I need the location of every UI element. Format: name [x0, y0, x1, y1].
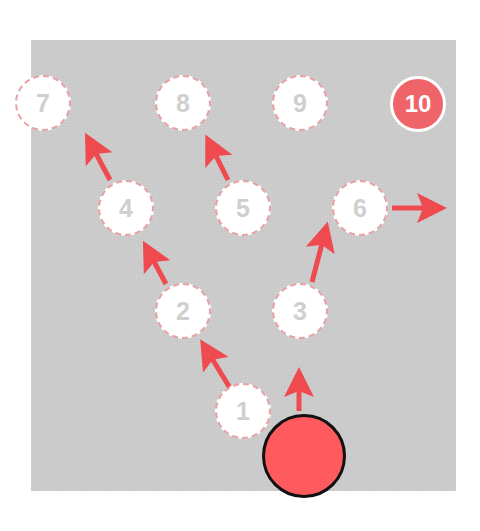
arrow-2-to-4: [150, 254, 166, 284]
node-7[interactable]: 7: [15, 75, 71, 131]
node-10-goal[interactable]: 10: [390, 76, 446, 132]
node-3[interactable]: 3: [272, 283, 328, 339]
arrow-3-to-6: [312, 236, 324, 282]
node-1[interactable]: 1: [215, 383, 271, 439]
node-9[interactable]: 9: [272, 75, 328, 131]
arrow-1-to-2: [208, 352, 230, 388]
node-8[interactable]: 8: [155, 75, 211, 131]
node-6[interactable]: 6: [332, 180, 388, 236]
node-4[interactable]: 4: [98, 180, 154, 236]
arrow-5-to-8: [212, 148, 228, 180]
player-token[interactable]: [262, 414, 346, 498]
arrow-4-to-7: [92, 146, 110, 180]
node-2[interactable]: 2: [155, 283, 211, 339]
node-5[interactable]: 5: [215, 180, 271, 236]
